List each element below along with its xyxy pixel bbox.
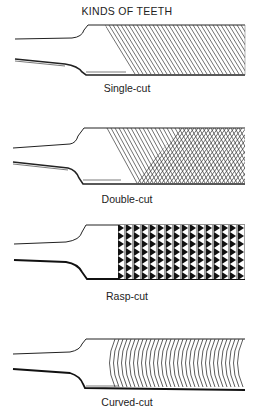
caption-double-cut: Double-cut	[0, 193, 254, 205]
rasp-cut-file-illustration	[0, 218, 254, 288]
caption-curved-cut: Curved-cut	[0, 396, 254, 408]
caption-single-cut: Single-cut	[0, 82, 254, 94]
single-cut-file-illustration	[0, 18, 254, 88]
caption-rasp-cut: Rasp-cut	[0, 290, 254, 302]
curved-cut-file-illustration	[0, 332, 254, 402]
double-cut-file-illustration	[0, 122, 254, 192]
diagram-title: KINDS OF TEETH	[0, 5, 254, 17]
